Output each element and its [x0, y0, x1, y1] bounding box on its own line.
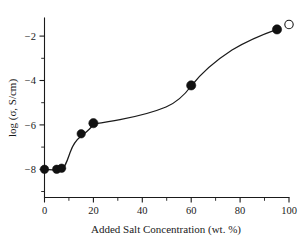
conductivity-curve — [45, 29, 278, 169]
data-point-0 — [40, 165, 48, 173]
plot-canvas: 0 20 40 60 80 100 −2 −4 −6 −8 — [0, 0, 305, 243]
x-tick-label-60: 60 — [186, 205, 197, 216]
x-tick-label-80: 80 — [235, 205, 246, 216]
x-tick-label-100: 100 — [281, 205, 297, 216]
data-point-3 — [77, 130, 85, 138]
data-point-4 — [89, 119, 98, 128]
y-tick-label-minus4: −4 — [25, 75, 37, 86]
x-axis-tick-labels: 0 20 40 60 80 100 — [42, 205, 297, 216]
data-point-5 — [187, 81, 196, 90]
data-point-6 — [272, 25, 281, 34]
y-tick-label-minus6: −6 — [25, 120, 36, 131]
y-axis-tick-labels: −2 −4 −6 −8 — [25, 31, 37, 175]
data-point-2 — [57, 164, 65, 172]
y-tick-label-minus8: −8 — [25, 164, 36, 175]
x-tick-label-0: 0 — [42, 205, 47, 216]
x-axis-ticks — [45, 198, 290, 203]
x-tick-label-40: 40 — [137, 205, 148, 216]
chart-figure: 0 20 40 60 80 100 −2 −4 −6 −8 — [0, 0, 305, 243]
data-markers-open — [285, 20, 293, 28]
y-axis-title: log (σ, S/cm) — [6, 79, 19, 138]
x-tick-label-20: 20 — [88, 205, 99, 216]
open-data-point-0 — [285, 20, 293, 28]
x-axis-title: Added Salt Concentration (wt. %) — [91, 223, 241, 236]
data-markers-filled — [40, 25, 281, 174]
axis-spines — [45, 18, 290, 198]
y-tick-label-minus2: −2 — [25, 31, 36, 42]
